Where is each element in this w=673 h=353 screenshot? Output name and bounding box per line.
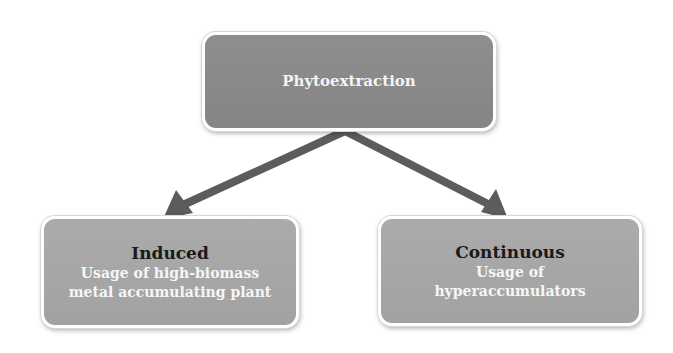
child-node-continuous: Continuous Usage of hyperaccumulators xyxy=(378,216,642,326)
child-node-description-line: metal accumulating plant xyxy=(69,283,272,302)
child-node-heading: Continuous xyxy=(455,242,565,263)
child-node-description-line: Usage of high-biomass xyxy=(81,264,259,283)
root-node-phytoextraction: Phytoextraction xyxy=(202,32,496,131)
child-node-description-line: hyperaccumulators xyxy=(434,282,585,301)
arrow-shaft-left xyxy=(183,131,345,205)
arrow-to-continuous xyxy=(345,131,508,219)
arrow-shaft-right xyxy=(345,131,490,205)
child-node-heading: Induced xyxy=(131,243,209,264)
child-node-description-line: Usage of xyxy=(476,263,544,282)
child-node-induced: Induced Usage of high-biomass metal accu… xyxy=(41,216,299,328)
arrow-to-induced xyxy=(163,131,345,219)
root-node-label: Phytoextraction xyxy=(282,72,416,90)
diagram-canvas: Phytoextraction Induced Usage of high-bi… xyxy=(0,0,673,353)
